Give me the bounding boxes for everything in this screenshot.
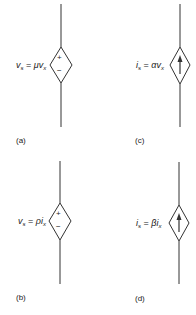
equation-c: is = αvx (136, 60, 164, 73)
caption-b: (b) (16, 293, 26, 303)
equation-a: vs = μvx (16, 60, 46, 73)
plus-icon: + (57, 53, 62, 63)
equation-d: is = βix (136, 218, 161, 231)
caption-a: (a) (16, 136, 26, 146)
equation-b: vs = ρix (18, 216, 46, 229)
minus-icon: − (56, 222, 61, 232)
panel-c-source (170, 4, 190, 127)
dependent-sources-diagram (0, 0, 196, 315)
plus-icon: + (56, 209, 61, 219)
minus-icon: − (57, 66, 62, 76)
caption-d: (d) (135, 294, 145, 304)
panel-d-source (169, 162, 189, 284)
caption-c: (c) (135, 136, 144, 146)
